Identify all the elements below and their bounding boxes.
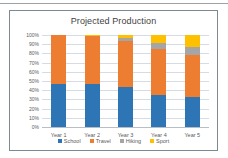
y-axis-tick-label: 90%	[29, 41, 39, 47]
legend-item-school[interactable]: School	[58, 138, 81, 144]
segment-hiking[interactable]	[151, 43, 166, 49]
top-divider-rule	[0, 3, 228, 4]
column-5[interactable]: Year 5	[185, 35, 200, 127]
segment-sport[interactable]	[85, 35, 100, 36]
legend-item-sport[interactable]: Sport	[150, 138, 169, 144]
y-axis-tick-label: 30%	[29, 96, 39, 102]
segment-hiking[interactable]	[185, 47, 200, 55]
column-4[interactable]: Year 4	[151, 35, 166, 127]
legend-label: Travel	[96, 138, 111, 144]
chart-legend[interactable]: SchoolTravelHikingSport	[10, 138, 217, 144]
legend-item-hiking[interactable]: Hiking	[120, 138, 141, 144]
y-axis-tick-label: 0%	[32, 124, 39, 130]
segment-travel[interactable]	[185, 55, 200, 96]
segment-travel[interactable]	[85, 36, 100, 84]
gridline	[42, 127, 209, 128]
y-axis-tick-label: 20%	[29, 106, 39, 112]
y-axis-tick-label: 80%	[29, 50, 39, 56]
y-axis-tick-label: 10%	[29, 115, 39, 121]
legend-label: School	[64, 138, 81, 144]
legend-swatch-icon	[120, 139, 124, 143]
plot-area[interactable]: 100%90%80%70%60%50%40%30%20%10%0% Year 1…	[42, 35, 209, 127]
column-1[interactable]: Year 1	[51, 35, 66, 127]
legend-swatch-icon	[150, 139, 154, 143]
segment-school[interactable]	[51, 84, 66, 127]
segment-travel[interactable]	[118, 41, 133, 87]
chart-title: Projected Production	[10, 16, 217, 26]
legend-item-travel[interactable]: Travel	[90, 138, 111, 144]
segment-sport[interactable]	[151, 35, 166, 43]
legend-swatch-icon	[90, 139, 94, 143]
column-3[interactable]: Year 3	[118, 35, 133, 127]
segment-sport[interactable]	[185, 35, 200, 47]
y-axis-tick-label: 40%	[29, 87, 39, 93]
segment-school[interactable]	[118, 87, 133, 127]
segment-school[interactable]	[185, 97, 200, 127]
legend-label: Sport	[156, 138, 169, 144]
legend-swatch-icon	[58, 139, 62, 143]
column-2[interactable]: Year 2	[85, 35, 100, 127]
y-axis-tick-label: 100%	[26, 32, 39, 38]
y-axis-tick-label: 50%	[29, 78, 39, 84]
segment-travel[interactable]	[151, 49, 166, 95]
segment-school[interactable]	[85, 84, 100, 127]
legend-label: Hiking	[126, 138, 141, 144]
segment-hiking[interactable]	[118, 38, 133, 42]
chart-container[interactable]: Projected Production 100%90%80%70%60%50%…	[9, 10, 218, 151]
y-axis-tick-label: 70%	[29, 60, 39, 66]
segment-sport[interactable]	[118, 35, 133, 38]
segment-travel[interactable]	[51, 35, 66, 84]
segment-school[interactable]	[151, 95, 166, 127]
y-axis-tick-label: 60%	[29, 69, 39, 75]
